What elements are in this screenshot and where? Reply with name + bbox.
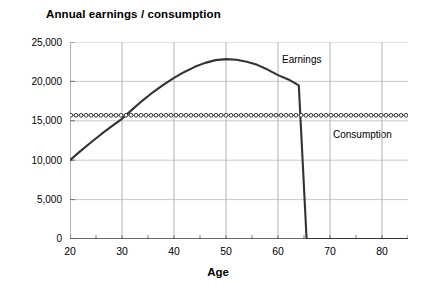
y-axis-ticks [70,42,75,239]
series-line-consumption [70,113,408,117]
x-axis-tick-label-20: 20 [54,246,86,257]
y-axis-tick-label-20000: 20,000 [8,77,62,87]
x-axis-tick-label-50: 50 [210,246,242,257]
x-axis-title: Age [0,266,436,278]
vertical-gridlines [122,42,382,239]
x-axis-tick-label-70: 70 [314,246,346,257]
page-title: Annual earnings / consumption [46,8,221,20]
x-axis-tick-label-30: 30 [106,246,138,257]
x-axis-tick-label-40: 40 [158,246,190,257]
chart-figure: Annual earnings / consumption 25,000 20,… [0,0,436,293]
series-line-earnings [70,59,408,239]
plot-area [70,42,408,239]
y-axis-tick-label-10000: 10,000 [8,156,62,166]
x-axis-tick-label-60: 60 [262,246,294,257]
y-axis-tick-label-0: 0 [8,234,62,244]
y-axis-tick-label-5000: 5,000 [8,195,62,205]
x-axis-tick-label-80: 80 [366,246,398,257]
chart-canvas [70,42,408,239]
y-axis-tick-label-15000: 15,000 [8,116,62,126]
y-axis-tick-label-25000: 25,000 [8,38,62,48]
